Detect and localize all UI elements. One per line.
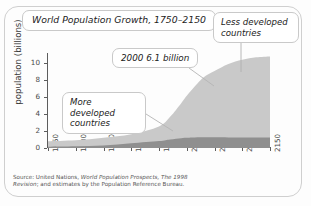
y-tick-6 — [44, 97, 47, 98]
callout-less-developed-countries: Less developed countries — [213, 12, 299, 43]
chart-title-callout: World Population Growth, 1750–2150 — [22, 10, 216, 31]
x-tick-1850 — [104, 148, 105, 151]
y-tick-label-2: 2 — [0, 127, 40, 134]
y-tick-label-0: 0 — [0, 144, 40, 151]
x-tick-2100 — [242, 148, 243, 151]
x-tick-1800 — [76, 148, 77, 151]
y-tick-2 — [44, 131, 47, 132]
source-revision: Revision — [13, 181, 37, 187]
y-tick-10 — [44, 63, 47, 64]
y-tick-4 — [44, 114, 47, 115]
figure-container: 0246810 population (billions) 1750180018… — [0, 0, 311, 206]
source-publication-title: World Population Prospects, The 1998 — [81, 174, 188, 180]
x-tick-2150 — [270, 148, 271, 151]
x-tick-label-2150: 2150 — [273, 134, 282, 152]
callout-annotation-2000: 2000 6.1 billion — [112, 48, 198, 68]
x-tick-2000 — [187, 148, 188, 151]
source-note: Source: United Nations, World Population… — [13, 174, 243, 189]
source-suffix: ; and estimates by the Population Refere… — [37, 181, 185, 187]
x-tick-2050 — [215, 148, 216, 151]
source-prefix: Source: United Nations, — [13, 174, 81, 180]
y-tick-8 — [44, 80, 47, 81]
y-tick-0 — [44, 148, 47, 149]
x-tick-1750 — [48, 148, 49, 151]
x-tick-1950 — [159, 148, 160, 151]
callout-more-developed-countries: More developed countries — [62, 92, 146, 134]
x-tick-1900 — [131, 148, 132, 151]
